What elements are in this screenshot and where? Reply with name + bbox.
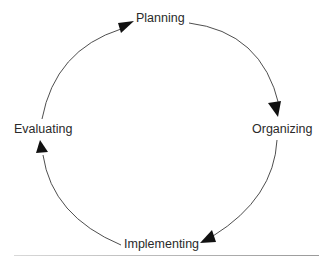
arrowhead-organizing [268, 101, 281, 117]
management-cycle-diagram: Planning Organizing Implementing Evaluat… [0, 0, 323, 267]
stage-label-organizing: Organizing [252, 123, 312, 136]
arrowhead-implementing [200, 230, 216, 243]
stage-label-planning: Planning [136, 12, 185, 25]
arrowhead-evaluating [36, 140, 48, 153]
stage-label-evaluating: Evaluating [14, 123, 72, 136]
arc-implementing-to-evaluating [43, 155, 121, 245]
arc-planning-to-organizing [189, 23, 279, 105]
stage-label-implementing: Implementing [124, 238, 199, 251]
arrowhead-planning [118, 21, 134, 33]
arc-organizing-to-implementing [213, 140, 277, 236]
bottom-divider [14, 255, 319, 256]
arc-evaluating-to-planning [42, 29, 121, 119]
